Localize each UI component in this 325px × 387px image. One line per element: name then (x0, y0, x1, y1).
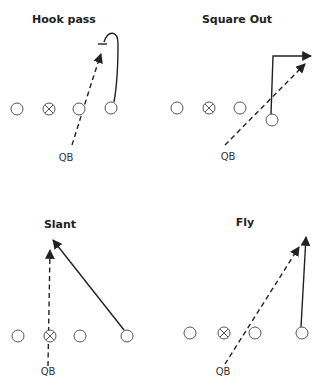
center-player-x (218, 327, 230, 339)
play-fly: Fly QB (184, 216, 308, 377)
qb-label: QB (216, 366, 231, 377)
qb-label: QB (221, 151, 236, 162)
play-title: Hook pass (32, 13, 96, 26)
player-circle (11, 103, 23, 115)
receiver-circle (296, 327, 308, 339)
player-circle (171, 102, 183, 114)
player-circle (12, 330, 24, 342)
player-circle (184, 327, 196, 339)
pass-trajectory-line (48, 250, 50, 366)
player-circle (249, 327, 261, 339)
receiver-route-line (53, 240, 124, 330)
player-circle (73, 103, 85, 115)
qb-label: QB (59, 152, 74, 163)
receiver-route-line (301, 237, 306, 327)
center-player-x (43, 103, 55, 115)
pass-trajectory-line (225, 247, 299, 364)
center-player-x (203, 102, 215, 114)
center-player-x (44, 330, 56, 342)
player-circle (234, 102, 246, 114)
player-circle (74, 330, 86, 342)
play-hook-pass: Hook pass QB (11, 13, 118, 163)
qb-label: QB (41, 366, 56, 377)
play-square-out: Square Out QB (171, 13, 311, 162)
receiver-circle (105, 102, 117, 114)
pass-plays-diagram: Hook pass QB Square Out QB Slant (0, 0, 325, 387)
play-title: Fly (236, 216, 254, 229)
play-slant: Slant QB (12, 218, 133, 377)
receiver-circle (121, 330, 133, 342)
receiver-circle (266, 114, 278, 126)
play-title: Slant (44, 218, 76, 231)
play-title: Square Out (202, 13, 272, 26)
pass-trajectory-line (72, 54, 101, 145)
